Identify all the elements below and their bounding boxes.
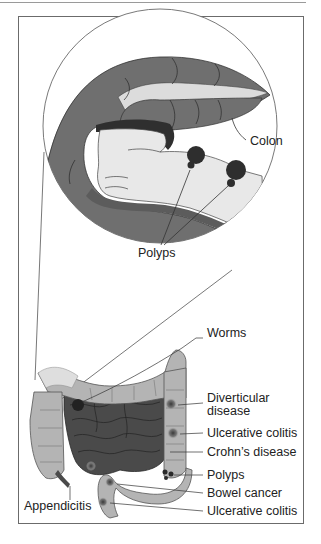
label-colon: Colon (250, 134, 283, 148)
colon-overview (30, 338, 203, 518)
label-appendicitis: Appendicitis (24, 499, 91, 513)
diverticular-spot-icon (165, 398, 177, 410)
label-polyps-overview: Polyps (207, 468, 245, 482)
label-crohns-disease: Crohn’s disease (207, 445, 296, 459)
label-diverticular-disease-line2: disease (207, 404, 250, 418)
label-bowel-cancer: Bowel cancer (207, 486, 282, 500)
ulcerative-colitis-lower-spot-icon (98, 497, 108, 507)
label-diverticular-disease-line1: Diverticular (207, 391, 270, 405)
worms-spot-icon (72, 399, 84, 411)
label-worms: Worms (207, 326, 246, 340)
crohns-spot-icon (86, 461, 96, 471)
label-ulcerative-colitis-lower: Ulcerative colitis (207, 504, 297, 518)
colon-illustration (0, 0, 321, 544)
label-ulcerative-colitis-upper: Ulcerative colitis (207, 426, 297, 440)
ulcerative-colitis-spot-icon (167, 427, 179, 439)
label-polyps-magnified: Polyps (138, 246, 176, 260)
bowel-cancer-spot-icon (105, 477, 115, 487)
